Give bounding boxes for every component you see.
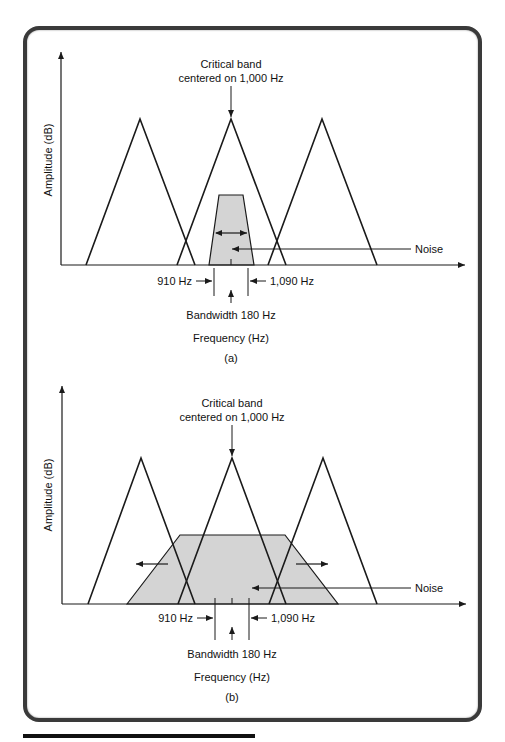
noise-label-a: Noise xyxy=(415,243,443,255)
critical-band-label-a1: Critical band xyxy=(200,58,261,70)
filter-triangle-left xyxy=(86,119,195,265)
low-edge-label-b: 910 Hz xyxy=(158,612,193,624)
y-axis-label-a: Amplitude (dB) xyxy=(42,124,54,197)
y-axis-label-b: Amplitude (dB) xyxy=(42,459,54,532)
caption-b: (b) xyxy=(225,691,238,703)
panel-a: Critical band centered on 1,000 Hz Noise… xyxy=(42,52,465,364)
high-edge-label-a: 1,090 Hz xyxy=(270,275,314,287)
x-axis-label-a: Frequency (Hz) xyxy=(193,332,269,344)
low-edge-label-a: 910 Hz xyxy=(157,275,192,287)
bandwidth-label-a: Bandwidth 180 Hz xyxy=(186,309,275,321)
noise-label-b: Noise xyxy=(415,582,443,594)
critical-band-label-a2: centered on 1,000 Hz xyxy=(178,72,283,84)
bandwidth-label-b: Bandwidth 180 Hz xyxy=(187,648,276,660)
high-edge-label-b: 1,090 Hz xyxy=(271,612,315,624)
panel-b: Critical band centered on 1,000 Hz Noise… xyxy=(42,386,466,703)
critical-band-label-b2: centered on 1,000 Hz xyxy=(179,411,284,423)
critical-band-label-b1: Critical band xyxy=(201,397,262,409)
x-axis-label-b: Frequency (Hz) xyxy=(194,671,270,683)
noise-band-b xyxy=(127,535,338,604)
filter-triangle-right xyxy=(268,119,377,265)
critical-band-diagram: Critical band centered on 1,000 Hz Noise… xyxy=(0,0,505,742)
caption-a: (a) xyxy=(224,352,237,364)
noise-band-a xyxy=(209,195,254,265)
